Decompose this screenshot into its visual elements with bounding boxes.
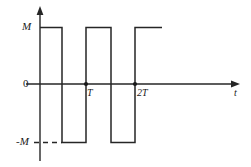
plot-canvas: [0, 0, 251, 167]
x-tick-label-T: T: [87, 88, 93, 98]
square-wave-figure: M 0 -M T 2T t: [0, 0, 251, 167]
x-tick-label-2T: 2T: [137, 88, 148, 98]
tick-dot-T: [84, 82, 88, 86]
tick-dot-2T: [133, 82, 137, 86]
square-wave-trace: [40, 28, 162, 143]
x-axis-label: t: [234, 88, 237, 98]
y-tick-label-zero: 0: [23, 78, 29, 89]
y-tick-label-minus-M: -M: [16, 136, 29, 147]
y-tick-label-M: M: [22, 21, 31, 32]
